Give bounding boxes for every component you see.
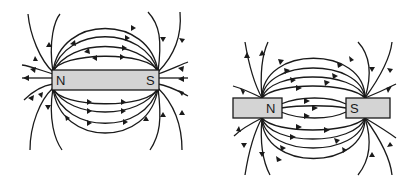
north-pole-label: N xyxy=(266,101,275,116)
bar-magnet xyxy=(52,70,159,90)
two-magnets-diagram: N S xyxy=(233,42,396,175)
magnetic-field-diagrams: N S xyxy=(0,0,417,190)
field-lines-bottom xyxy=(30,88,182,150)
south-pole-label: S xyxy=(350,101,359,116)
single-magnet-diagram: N S xyxy=(22,12,188,150)
north-pole-label: N xyxy=(56,73,65,88)
south-pole-label: S xyxy=(146,73,155,88)
